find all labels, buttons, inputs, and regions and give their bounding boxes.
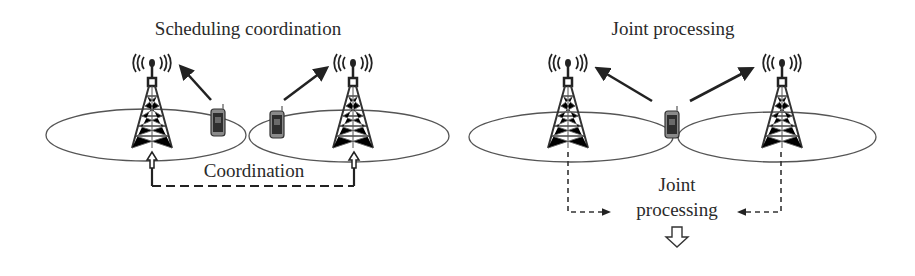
joint-processing-title: Joint processing <box>612 18 735 40</box>
joint-processing-center-label: Joint processing <box>636 172 717 222</box>
center-label-line1: Joint <box>636 172 717 197</box>
scheduling-coordination-title: Scheduling coordination <box>155 18 341 40</box>
coordination-label: Coordination <box>204 160 304 182</box>
center-label-line2: processing <box>636 197 717 222</box>
uplink-arrow <box>600 70 652 101</box>
uplink-arrow <box>183 69 211 100</box>
up-arrow-icon <box>349 152 359 168</box>
uplink-arrow <box>284 70 324 100</box>
uplink-arrow <box>690 70 749 101</box>
mobile-phone-icon <box>270 106 284 138</box>
up-arrow-icon <box>147 152 157 168</box>
base-station-tower-icon <box>132 54 172 148</box>
base-station-tower-icon <box>333 54 373 148</box>
base-station-tower-icon <box>762 54 802 148</box>
base-station-tower-icon <box>548 54 588 148</box>
comp-diagram-canvas <box>0 0 915 276</box>
mobile-phone-icon <box>211 104 225 136</box>
mobile-phone-icon <box>665 106 679 138</box>
hollow-down-arrow-icon <box>666 227 688 247</box>
